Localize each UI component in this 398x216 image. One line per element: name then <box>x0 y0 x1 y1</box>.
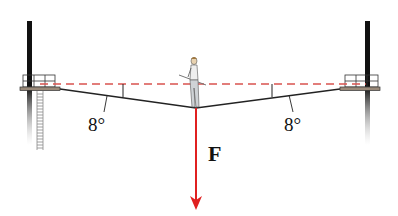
ladder <box>37 91 43 150</box>
left-pole-assembly <box>20 21 60 150</box>
right-angle-leader <box>289 95 293 112</box>
tightrope-walker <box>179 57 206 107</box>
right-railing <box>345 75 378 87</box>
rope <box>60 89 340 108</box>
walker-legs <box>190 80 199 107</box>
walker-hair <box>191 57 197 59</box>
left-pole-bottom <box>27 90 32 145</box>
right-pole-assembly <box>340 21 380 145</box>
left-angle-leader <box>104 96 107 112</box>
left-angle-label: 8° <box>88 114 105 135</box>
tightrope-diagram: 8° 8° F <box>0 0 398 216</box>
left-platform <box>20 87 60 91</box>
force-vector <box>190 108 202 210</box>
right-pole-bottom <box>365 90 370 145</box>
left-pole-top <box>27 21 32 88</box>
right-pole-top <box>365 21 370 88</box>
right-angle-label: 8° <box>284 114 301 135</box>
walker-torso <box>190 65 198 80</box>
force-label: F <box>208 141 221 166</box>
right-platform <box>340 87 380 91</box>
